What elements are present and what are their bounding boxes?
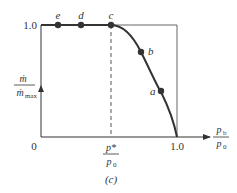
- x-tick-0: 0: [31, 140, 37, 152]
- x-label-numerator-sub: b: [223, 129, 227, 137]
- y-tick-1: 1.0: [23, 19, 37, 31]
- y-axis-arrow-icon: [38, 85, 44, 92]
- x-label-denominator: p: [216, 138, 222, 149]
- y-label-denominator-sub: max: [25, 92, 38, 100]
- x-tick-critical-denominator: p: [106, 156, 112, 167]
- x-label-numerator: p: [216, 124, 222, 135]
- x-tick-1: 1.0: [170, 140, 184, 152]
- point-a-label: a: [150, 85, 156, 97]
- y-label-denominator: ṁ: [16, 87, 23, 98]
- x-tick-critical-denominator-sub: 0: [113, 161, 117, 169]
- figure-caption: (c): [105, 173, 118, 186]
- x-axis-arrow-icon: [203, 134, 211, 140]
- point-d-marker: [78, 22, 84, 28]
- choked-flow-diagram: e d c b a 1.0 ṁ ṁ max 0 1.0 p* p 0 p b p…: [0, 0, 237, 193]
- point-d-label: d: [78, 9, 84, 21]
- point-a-marker: [158, 88, 164, 94]
- point-e-marker: [55, 22, 61, 28]
- x-tick-critical-numerator: p*: [105, 142, 116, 153]
- y-label-numerator: ṁ: [19, 73, 26, 84]
- point-e-label: e: [56, 9, 61, 21]
- point-b-marker: [138, 49, 144, 55]
- point-c-label: c: [109, 9, 114, 21]
- mass-flow-curve: [41, 25, 177, 137]
- point-c-marker: [108, 22, 114, 28]
- x-label-denominator-sub: 0: [223, 143, 227, 151]
- point-b-label: b: [148, 45, 154, 57]
